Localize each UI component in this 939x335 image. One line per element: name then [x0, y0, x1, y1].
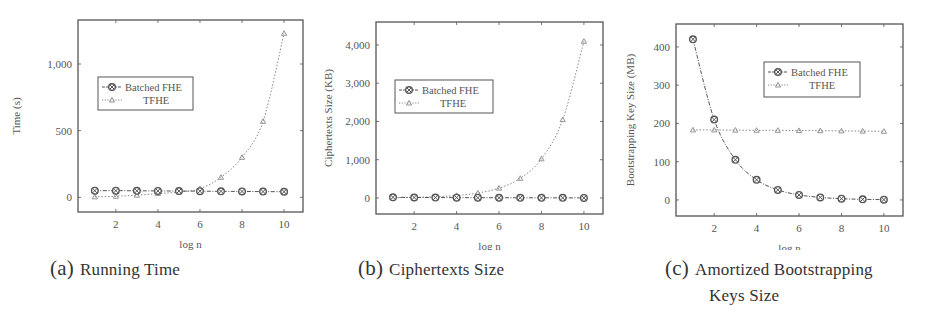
x-axis-label: log n — [478, 240, 501, 250]
series-batched-fhe — [690, 36, 888, 203]
y-tick-label: 0 — [665, 194, 671, 206]
y-tick-label: 1,000 — [47, 58, 72, 70]
x-tick-label: 4 — [454, 220, 460, 232]
x-tick-label: 6 — [496, 220, 502, 232]
legend-label: TFHE — [143, 95, 169, 106]
figure: 24681005001,000log nTime (s)Batched FHET… — [0, 0, 939, 335]
caption-a-label: (a) — [50, 256, 74, 280]
y-axis-label: Time (s) — [10, 97, 23, 135]
caption-b-label: (b) — [358, 256, 383, 280]
caption-c-text-line1: Amortized Bootstrapping — [695, 260, 873, 279]
y-axis-label: Bootstrapping Key Size (MB) — [624, 54, 637, 187]
marker-triangle — [560, 117, 565, 122]
caption-b: (b)Ciphertexts Size — [358, 255, 504, 283]
y-tick-label: 0 — [67, 191, 73, 203]
series-batched-fhe — [92, 187, 288, 195]
y-tick-label: 400 — [654, 41, 671, 53]
caption-a: (a)Running Time — [50, 255, 180, 283]
y-tick-label: 2,000 — [345, 115, 370, 127]
caption-a-text: Running Time — [80, 260, 180, 279]
x-axis-label: log n — [179, 238, 202, 250]
series-line — [95, 191, 284, 192]
y-axis-label: Ciphertexts Size (KB) — [322, 69, 335, 167]
legend-label: Batched FHE — [791, 67, 848, 78]
y-tick-label: 1,000 — [345, 154, 370, 166]
y-tick-label: 3,000 — [345, 77, 370, 89]
marker-triangle — [518, 176, 523, 181]
x-tick-label: 4 — [155, 218, 161, 230]
marker-triangle — [260, 119, 265, 124]
y-tick-label: 100 — [654, 156, 671, 168]
x-tick-label: 2 — [113, 218, 119, 230]
series-line — [693, 130, 884, 131]
x-tick-label: 8 — [239, 218, 245, 230]
x-tick-label: 4 — [754, 222, 760, 234]
legend-label: Batched FHE — [422, 85, 479, 96]
legend: Batched FHETFHE — [98, 77, 193, 110]
x-tick-label: 8 — [839, 222, 845, 234]
y-tick-label: 4,000 — [345, 39, 370, 51]
x-tick-label: 6 — [197, 218, 203, 230]
x-axis-label: log n — [778, 242, 801, 250]
x-tick-label: 10 — [878, 222, 890, 234]
legend: Batched FHETFHE — [395, 80, 493, 113]
caption-c-label: (c) — [665, 256, 689, 280]
x-tick-label: 8 — [539, 220, 545, 232]
marker-triangle — [281, 31, 286, 36]
legend-label: Batched FHE — [125, 82, 182, 93]
y-tick-label: 300 — [654, 79, 671, 91]
plot-frame — [78, 20, 303, 212]
x-tick-label: 6 — [796, 222, 802, 234]
x-tick-label: 2 — [711, 222, 717, 234]
series-batched-fhe — [390, 194, 588, 201]
legend-label: TFHE — [809, 80, 835, 91]
x-tick-label: 10 — [578, 220, 590, 232]
series-tfhe — [92, 31, 286, 199]
caption-b-text: Ciphertexts Size — [389, 260, 504, 279]
y-tick-label: 0 — [365, 192, 371, 204]
y-tick-label: 500 — [56, 125, 73, 137]
series-tfhe — [390, 39, 586, 200]
caption-c: (c)Amortized Bootstrapping Keys Size — [665, 255, 873, 309]
x-tick-label: 2 — [411, 220, 417, 232]
series-line — [393, 41, 584, 197]
caption-c-text-line2: Keys Size — [665, 283, 873, 309]
chart-ciphertexts-size: 24681001,0002,0003,0004,000log nCipherte… — [310, 0, 630, 250]
chart-running-time: 24681005001,000log nTime (s)Batched FHET… — [0, 0, 320, 250]
plot-frame — [676, 24, 903, 216]
series-line — [393, 197, 584, 198]
legend: Batched FHETFHE — [764, 62, 860, 97]
marker-triangle — [581, 39, 586, 44]
chart-bootstrapping-key-size: 2468100100200300400log nBootstrapping Ke… — [620, 0, 939, 250]
series-line — [95, 33, 284, 196]
x-tick-label: 10 — [279, 218, 291, 230]
series-tfhe — [690, 127, 886, 133]
legend-label: TFHE — [440, 98, 466, 109]
plot-frame — [376, 22, 603, 214]
y-tick-label: 200 — [654, 117, 671, 129]
